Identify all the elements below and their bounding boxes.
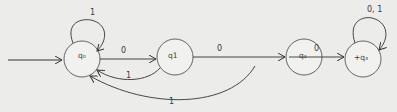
transition-q1-q2-label: 0 <box>217 44 222 53</box>
diagram-canvas: q₀ q1 q₂ +q₃ 1 0 1 0 1 0 <box>0 0 397 112</box>
transition-q1-q0-label: 1 <box>126 71 131 80</box>
transition-q2-q0-label: 1 <box>169 97 174 106</box>
transition-q0-q1-label: 0 <box>121 46 126 55</box>
state-q2-label: q₂ <box>299 51 307 60</box>
state-q3-label: +q₃ <box>354 53 368 62</box>
state-q0: q₀ <box>64 41 100 77</box>
state-q0-label: q₀ <box>78 51 86 60</box>
state-q3: +q₃ <box>345 41 381 77</box>
transition-q3-q3-label: 0, 1 <box>367 5 382 14</box>
state-q1-label: q1 <box>168 51 178 60</box>
state-q1: q1 <box>157 39 193 75</box>
automaton-diagram: q₀ q1 q₂ +q₃ 1 0 1 0 1 0 <box>0 0 397 112</box>
transition-q0-q0-label: 1 <box>90 8 95 17</box>
transition-q2-q3-label: 0 <box>314 44 319 53</box>
